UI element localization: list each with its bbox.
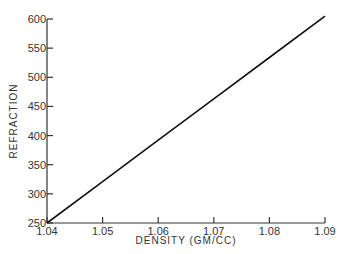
- x-tick-label: 1.09: [314, 225, 335, 237]
- series-line: [47, 16, 325, 223]
- y-axis: 250300350400450500550600: [28, 13, 53, 229]
- y-tick-label: 450: [28, 100, 46, 112]
- y-tick-label: 350: [28, 159, 46, 171]
- line-chart: 250300350400450500550600 1.041.051.061.0…: [0, 0, 346, 254]
- y-tick-label: 500: [28, 71, 46, 83]
- y-tick-label: 550: [28, 42, 46, 54]
- x-axis: 1.041.051.061.071.081.09: [36, 217, 335, 237]
- y-tick-label: 300: [28, 188, 46, 200]
- x-tick-label: 1.04: [36, 225, 57, 237]
- x-axis-title: DENSITY (GM/CC): [136, 235, 237, 246]
- x-tick-label: 1.05: [92, 225, 113, 237]
- data-series: [47, 16, 325, 223]
- y-tick-label: 600: [28, 13, 46, 25]
- y-axis-title: REFRACTION: [8, 84, 19, 159]
- y-tick-label: 400: [28, 130, 46, 142]
- x-tick-label: 1.08: [259, 225, 280, 237]
